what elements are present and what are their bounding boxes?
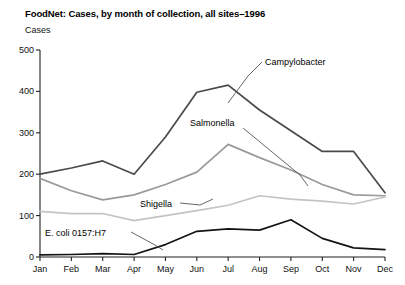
x-tick-mar: Mar — [86, 264, 120, 274]
series-label-ecoli: E. coli 0157:H7 — [45, 228, 106, 238]
x-tick-aug: Aug — [243, 264, 277, 274]
y-tick-0: 0 — [4, 252, 34, 262]
series-line-salmonella — [40, 144, 385, 199]
line-chart-plot — [0, 0, 405, 285]
x-tick-nov: Nov — [337, 264, 371, 274]
annotation-leader-lines — [131, 62, 308, 250]
series-label-salmonella: Salmonella — [190, 118, 235, 128]
x-tick-jan: Jan — [23, 264, 57, 274]
x-tick-apr: Apr — [117, 264, 151, 274]
y-tick-400: 400 — [4, 86, 34, 96]
leader-line-salmonella — [243, 128, 308, 186]
x-tick-jul: Jul — [211, 264, 245, 274]
x-tick-sep: Sep — [274, 264, 308, 274]
leader-line-shigella — [180, 199, 213, 205]
series-label-shigella: Shigella — [140, 199, 172, 209]
y-tick-500: 500 — [4, 45, 34, 55]
chart-screenshot: FoodNet: Cases, by month of collection, … — [0, 0, 405, 285]
y-tick-200: 200 — [4, 169, 34, 179]
x-tick-dec: Dec — [368, 264, 402, 274]
series-label-campylobacter: Campylobacter — [265, 57, 326, 67]
x-tick-may: May — [148, 264, 182, 274]
leader-line-ecoli — [131, 232, 163, 250]
y-tick-100: 100 — [4, 211, 34, 221]
x-tick-jun: Jun — [180, 264, 214, 274]
leader-line-campylobacter — [228, 62, 262, 103]
y-tick-300: 300 — [4, 128, 34, 138]
series-line-campylobacter — [40, 85, 385, 193]
x-tick-oct: Oct — [305, 264, 339, 274]
x-tick-feb: Feb — [54, 264, 88, 274]
